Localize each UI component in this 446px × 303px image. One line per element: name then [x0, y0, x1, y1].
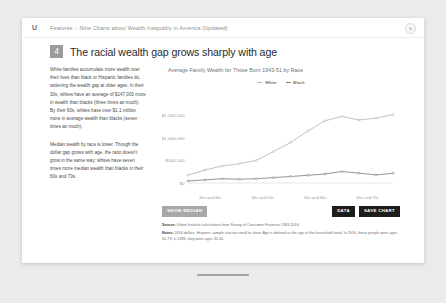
- article-page: U Features :: Nine Charts about Wealth I…: [22, 18, 424, 263]
- browser-viewport: U Features :: Nine Charts about Wealth I…: [0, 0, 446, 303]
- share-circle-icon[interactable]: [405, 23, 416, 34]
- data-point[interactable]: [358, 119, 360, 121]
- x-tick-label: 60s and 70s: [342, 195, 395, 200]
- line-chart-svg: $0$500,000$1,000,000$1,500,000: [162, 89, 400, 195]
- series-line-white: [188, 115, 393, 176]
- notes-label: Notes:: [162, 231, 173, 235]
- data-point[interactable]: [187, 174, 189, 176]
- page-title: The racial wealth gap grows sharply with…: [70, 46, 277, 58]
- legend-item-black[interactable]: Black: [286, 80, 305, 85]
- data-point[interactable]: [238, 163, 240, 165]
- data-point[interactable]: [358, 172, 360, 174]
- chart-plot-area[interactable]: $0$500,000$1,000,000$1,500,000: [162, 89, 400, 195]
- x-tick-label: 50s and 60s: [289, 195, 342, 200]
- legend-swatch-black-icon: [286, 82, 291, 83]
- x-tick-label: 30s and 40s: [184, 195, 237, 200]
- legend-swatch-white-icon: [257, 82, 262, 83]
- data-point[interactable]: [272, 177, 274, 179]
- chart-legend: White Black: [162, 80, 400, 85]
- data-point[interactable]: [341, 171, 343, 173]
- horizontal-scrollbar[interactable]: [197, 274, 249, 276]
- notes-text: 2016 dollars. Hispanic sample size too s…: [162, 231, 397, 241]
- data-point[interactable]: [375, 174, 377, 176]
- y-tick-label: $1,500,000: [162, 113, 185, 118]
- legend-label-white: White: [265, 80, 277, 85]
- data-point[interactable]: [238, 178, 240, 180]
- urban-institute-logo-icon[interactable]: U: [31, 23, 38, 32]
- data-point[interactable]: [255, 160, 257, 162]
- source-note: Source: Urban Institute calculations fro…: [162, 223, 400, 229]
- chart-x-axis-labels: 30s and 40s 40s and 50s 50s and 60s 60s …: [184, 195, 400, 200]
- data-point[interactable]: [221, 165, 223, 167]
- y-tick-label: $1,000,000: [162, 136, 185, 141]
- data-point[interactable]: [307, 174, 309, 176]
- page-headline: 4 The racial wealth gap grows sharply wi…: [22, 38, 424, 63]
- data-point[interactable]: [375, 117, 377, 119]
- data-point[interactable]: [272, 151, 274, 153]
- data-point[interactable]: [221, 178, 223, 180]
- y-tick-label: $0: [179, 181, 185, 186]
- data-point[interactable]: [255, 178, 257, 180]
- legend-item-white[interactable]: White: [257, 80, 276, 85]
- data-point[interactable]: [204, 179, 206, 181]
- data-point[interactable]: [307, 130, 309, 132]
- chart-footnotes: Source: Urban Institute calculations fro…: [162, 223, 400, 243]
- share-dot-icon: [409, 27, 412, 30]
- data-point[interactable]: [187, 180, 189, 182]
- data-point[interactable]: [289, 176, 291, 178]
- notes-note: Notes: 2016 dollars. Hispanic sample siz…: [162, 231, 400, 242]
- breadcrumb[interactable]: Features :: Nine Charts about Wealth Ine…: [50, 25, 228, 31]
- data-point[interactable]: [392, 114, 394, 116]
- article-paragraph: White families accumulate more wealth ov…: [50, 66, 146, 132]
- chart-column: Average Family Wealth for Those Born 194…: [162, 66, 424, 245]
- article-paragraph: Median wealth by race is lower. Though t…: [50, 141, 146, 182]
- data-point[interactable]: [204, 169, 206, 171]
- data-point[interactable]: [324, 173, 326, 175]
- x-tick-label: 40s and 50s: [237, 195, 290, 200]
- article-body: White families accumulate more wealth ov…: [22, 63, 424, 245]
- chart-number-badge: 4: [50, 45, 63, 58]
- y-tick-label: $500,000: [165, 158, 185, 163]
- save-chart-button[interactable]: SAVE CHART: [359, 206, 400, 217]
- data-point[interactable]: [341, 116, 343, 118]
- site-topbar: U Features :: Nine Charts about Wealth I…: [22, 18, 424, 38]
- data-point[interactable]: [392, 172, 394, 174]
- data-point[interactable]: [324, 120, 326, 122]
- legend-label-black: Black: [293, 80, 304, 85]
- chart-title: Average Family Wealth for Those Born 194…: [168, 67, 400, 73]
- data-point[interactable]: [289, 142, 291, 144]
- data-button[interactable]: DATA: [332, 206, 355, 217]
- show-median-button[interactable]: SHOW MEDIAN: [162, 206, 207, 217]
- chart-controls: SHOW MEDIAN DATA SAVE CHART: [162, 206, 400, 217]
- source-label: Source:: [162, 223, 176, 227]
- source-text: Urban Institute calculations from Survey…: [177, 223, 300, 227]
- article-text-column: White families accumulate more wealth ov…: [50, 66, 162, 245]
